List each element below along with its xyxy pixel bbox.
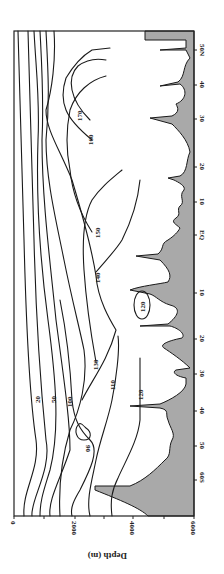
contour-lines: [18, 31, 150, 516]
label-170: 170: [76, 110, 84, 121]
lat-tick-40N: 40: [198, 81, 206, 89]
label-130: 130: [92, 359, 100, 370]
contour-150: [67, 76, 106, 232]
depth-axis-label: Depth (m): [88, 551, 127, 561]
label-120-deep: 120: [137, 389, 145, 400]
lat-tick-EQ: EQ: [198, 230, 206, 241]
contour-130: [83, 170, 122, 362]
contour-50: [28, 31, 47, 516]
contour-labels: 170 160 150 140 130 120 110 120 100 90 5…: [34, 110, 147, 453]
contour-20: [18, 31, 37, 516]
contour-d: [46, 31, 116, 400]
plot-frame: [14, 31, 194, 516]
contour-100: [60, 300, 94, 516]
lat-tick-30N: 30: [198, 115, 206, 123]
lat-tick-30S: 30: [198, 370, 206, 378]
lat-tick-50N: 50N: [198, 44, 206, 56]
lat-tick-20N: 20: [198, 163, 206, 171]
lat-tick-40S: 40: [198, 407, 206, 415]
label-20: 20: [34, 396, 42, 404]
label-150: 150: [94, 227, 102, 238]
contour-c: [46, 31, 85, 516]
label-90: 90: [84, 445, 92, 453]
bathymetry: [95, 31, 194, 516]
label-160: 160: [87, 134, 95, 145]
label-120-loop: 120: [139, 301, 147, 312]
lat-tick-10N: 10: [198, 198, 206, 206]
depth-tick-4000: 4000: [128, 521, 136, 536]
contour-140: [96, 180, 140, 272]
lat-tick-10S: 10: [198, 289, 206, 297]
depth-tick-2000: 2000: [70, 521, 78, 536]
contour-chart: 170 160 150 140 130 120 110 120 100 90 5…: [0, 0, 224, 574]
lat-tick-20S: 20: [198, 335, 206, 343]
label-100: 100: [66, 396, 74, 407]
depth-tick-6000: 6000: [189, 521, 197, 536]
label-110: 110: [109, 379, 117, 390]
contour-a: [34, 31, 56, 516]
lat-tick-50S: 50: [198, 442, 206, 450]
label-140: 140: [94, 272, 102, 283]
lat-tick-60S: 60S: [198, 472, 206, 483]
depth-axis: 0 2000 4000 6000 Depth (m): [9, 516, 197, 561]
latitude-axis: 50N 40 30 20 10 EQ 10 20 30 40 50 60S: [194, 44, 206, 483]
depth-tick-0: 0: [9, 521, 17, 525]
label-50: 50: [50, 396, 58, 404]
